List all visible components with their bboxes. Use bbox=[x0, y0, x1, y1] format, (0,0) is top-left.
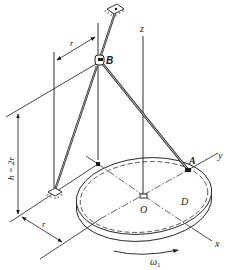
label-B: B bbox=[106, 55, 113, 66]
label-omega: ω1 bbox=[150, 256, 161, 269]
joint-A bbox=[185, 168, 191, 172]
rod-ceiling-to-B bbox=[101, 13, 115, 55]
y-axis-lower-line bbox=[40, 226, 90, 259]
label-r-bottom: r bbox=[42, 219, 46, 229]
mechanism-diagram: z B r A y x O D r h = 2r ω1 bbox=[0, 0, 227, 270]
joint-B bbox=[95, 55, 104, 65]
label-y: y bbox=[217, 150, 223, 161]
label-A: A bbox=[188, 155, 196, 166]
label-D: D bbox=[180, 196, 189, 207]
label-r-top: r bbox=[70, 38, 74, 48]
label-h: h = 2r bbox=[6, 156, 16, 180]
joint-left-rim bbox=[96, 162, 100, 166]
diagram-root: z B r A y x O D r h = 2r ω1 bbox=[0, 0, 227, 270]
x-axis-outer bbox=[192, 228, 212, 241]
origin-bearing bbox=[140, 194, 147, 198]
label-z: z bbox=[139, 23, 144, 34]
rod-B-to-A bbox=[102, 63, 189, 171]
label-x: x bbox=[214, 238, 220, 249]
dimension-r-top bbox=[57, 37, 95, 60]
label-O: O bbox=[140, 204, 147, 215]
rotation-arrow bbox=[114, 250, 178, 254]
